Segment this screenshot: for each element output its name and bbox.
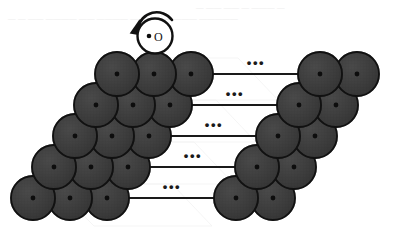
row-ellipsis-2: ••• [226, 86, 244, 101]
sphere-center-dot [234, 196, 239, 201]
row-ellipsis-1: ••• [247, 55, 265, 70]
sphere-center-dot [189, 72, 194, 77]
lattice-sphere-right-r1-c1[interactable] [298, 52, 342, 96]
sphere-center-dot [110, 134, 115, 139]
figure-canvas: — —— —— — ——— — — — —— ———— —— ———— —— —… [0, 0, 393, 245]
row-ellipsis-5: ••• [163, 179, 181, 194]
sphere-center-dot [73, 134, 78, 139]
sphere-center-dot [115, 72, 120, 77]
sphere-center-dot [94, 103, 99, 108]
artifact-mark-2: — — —— ———— —— ———— —— ——— ——— ————— [7, 14, 238, 23]
adatom-center-dot [147, 34, 152, 39]
sphere-center-dot [292, 165, 297, 170]
sphere-center-dot [276, 134, 281, 139]
artifact-mark-1: — —— —— — ——— — [195, 3, 285, 12]
row-ellipsis-4: ••• [184, 148, 202, 163]
sphere-center-dot [68, 196, 73, 201]
sphere-center-dot [334, 103, 339, 108]
sphere-center-dot [355, 72, 360, 77]
sphere-center-dot [131, 103, 136, 108]
lattice-sphere-left-r1-c1[interactable] [95, 52, 139, 96]
sphere-center-dot [52, 165, 57, 170]
adatom-label: O [154, 30, 163, 44]
sphere-center-dot [89, 165, 94, 170]
sphere-center-dot [126, 165, 131, 170]
sphere-center-dot [147, 134, 152, 139]
sphere-center-dot [318, 72, 323, 77]
lattice-diagram: — —— —— — ——— — — — —— ———— —— ———— —— —… [0, 0, 393, 245]
sphere-center-dot [255, 165, 260, 170]
sphere-center-dot [152, 72, 157, 77]
sphere-center-dot [271, 196, 276, 201]
row-ellipsis-3: ••• [205, 117, 223, 132]
sphere-center-dot [31, 196, 36, 201]
sphere-center-dot [297, 103, 302, 108]
sphere-center-dot [313, 134, 318, 139]
sphere-center-dot [168, 103, 173, 108]
sphere-center-dot [105, 196, 110, 201]
